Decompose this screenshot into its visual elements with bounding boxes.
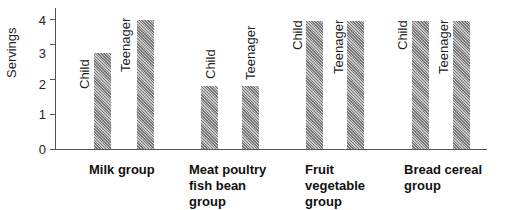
bar-label-child: Child bbox=[204, 49, 218, 79]
category-label-bread: Bread cereal group bbox=[404, 162, 504, 194]
y-axis-label: Servings bbox=[4, 27, 19, 78]
bar-bread-teenager bbox=[453, 21, 470, 149]
bar-meat-child bbox=[201, 86, 218, 149]
y-tick bbox=[50, 44, 55, 45]
category-label-fruit: Fruit vegetable group bbox=[305, 162, 405, 210]
bar-label-child: Child bbox=[78, 59, 92, 89]
bar-meat-teenager bbox=[242, 86, 259, 149]
y-tick bbox=[50, 19, 55, 20]
y-tick bbox=[50, 149, 55, 150]
y-tick bbox=[50, 79, 55, 80]
category-label-milk: Milk group bbox=[89, 162, 189, 178]
y-axis bbox=[55, 8, 56, 149]
y-tick-label: 1 bbox=[36, 108, 46, 122]
category-label-meat: Meat poultry fish bean group bbox=[189, 162, 289, 210]
bar-milk-child bbox=[94, 53, 111, 149]
y-tick-label: 0 bbox=[36, 143, 46, 157]
bar-label-teenager: Teenager bbox=[437, 20, 451, 74]
y-tick-label: 4 bbox=[36, 14, 46, 28]
y-tick-label: 3 bbox=[36, 47, 46, 61]
bar-bread-child bbox=[412, 21, 429, 149]
bar-label-teenager: Teenager bbox=[332, 20, 346, 74]
bar-label-child: Child bbox=[396, 20, 410, 50]
y-tick bbox=[50, 114, 55, 115]
bar-label-teenager: Teenager bbox=[244, 26, 258, 80]
bar-fruit-child bbox=[306, 21, 323, 149]
bar-milk-teenager bbox=[137, 20, 154, 149]
bar-label-teenager: Teenager bbox=[119, 18, 133, 72]
y-tick-label: 2 bbox=[36, 78, 46, 92]
x-axis bbox=[55, 149, 487, 150]
bar-fruit-teenager bbox=[347, 21, 364, 149]
bar-label-child: Child bbox=[291, 20, 305, 50]
